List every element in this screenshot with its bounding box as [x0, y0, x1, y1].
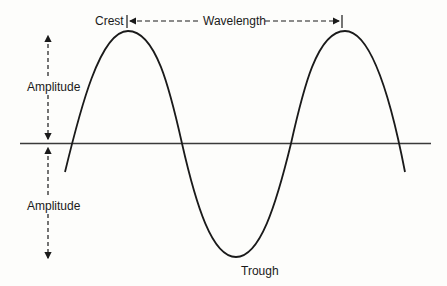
- amplitude-bottom-label: Amplitude: [27, 199, 81, 213]
- crest-label: Crest: [95, 14, 124, 28]
- trough-label: Trough: [241, 264, 279, 278]
- wave-diagram-canvas: Crest Wavelength Amplitude Amplitude Tro…: [0, 0, 447, 286]
- amplitude-top-label: Amplitude: [27, 80, 81, 94]
- wave-diagram: Crest Wavelength Amplitude Amplitude Tro…: [0, 0, 447, 286]
- wavelength-label: Wavelength: [203, 14, 266, 28]
